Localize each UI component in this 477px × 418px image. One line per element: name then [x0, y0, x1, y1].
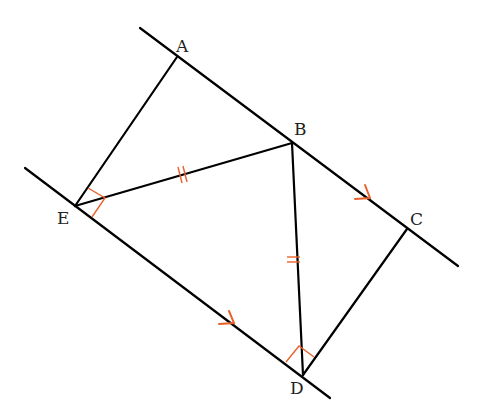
right-angle-mark-d — [286, 346, 314, 362]
segment-dc — [303, 229, 407, 375]
point-label-c: C — [410, 211, 423, 228]
parallel-arrow-ed — [219, 311, 234, 324]
line-abc — [140, 28, 458, 266]
point-label-e: E — [57, 210, 69, 227]
line-ed — [25, 168, 330, 398]
segment-eb — [75, 143, 292, 206]
geometry-diagram: A B C D E — [0, 0, 477, 418]
point-label-b: B — [294, 121, 307, 138]
segment-bd — [292, 143, 303, 375]
parallel-arrow-bc — [355, 185, 370, 199]
segment-ae — [75, 57, 177, 206]
diagram-svg — [0, 0, 477, 418]
point-label-d: D — [290, 380, 304, 397]
point-label-a: A — [176, 38, 188, 55]
